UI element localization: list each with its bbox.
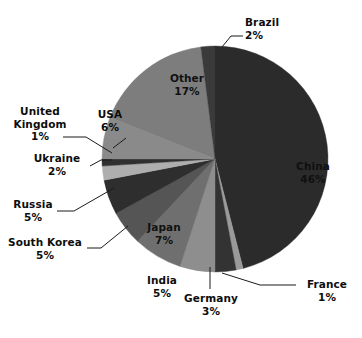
slice-label-china-name: China <box>296 160 330 172</box>
slice-label-ukraine-name: Ukraine <box>34 152 81 164</box>
slice-label-france-name: France <box>307 278 347 290</box>
slice-label-usa-name: USA <box>98 108 123 120</box>
slice-label-france-pct: 1% <box>299 291 355 304</box>
slice-label-united-kingdom-pct: 1% <box>6 130 74 143</box>
slice-label-japan-pct: 7% <box>135 234 193 247</box>
slice-label-united-kingdom-name2: Kingdom <box>6 118 74 131</box>
slice-label-usa-pct: 6% <box>88 121 132 134</box>
slice-label-united-kingdom: United Kingdom 1% <box>6 105 74 143</box>
slice-label-china-pct: 46% <box>285 173 341 186</box>
slice-label-other: Other 17% <box>152 72 222 97</box>
slice-label-japan: Japan 7% <box>135 221 193 246</box>
slice-label-brazil: Brazil 2% <box>245 16 279 41</box>
slice-label-usa: USA 6% <box>88 108 132 133</box>
slice-label-japan-name: Japan <box>147 221 181 233</box>
slice-label-other-name: Other <box>170 72 204 84</box>
slice-label-brazil-pct: 2% <box>245 29 279 42</box>
slice-label-india: India 5% <box>138 274 186 299</box>
slice-label-germany-name: Germany <box>184 292 238 304</box>
slice-label-ukraine: Ukraine 2% <box>26 152 88 177</box>
slice-label-germany: Germany 3% <box>180 292 242 317</box>
slice-label-south-korea-name: South Korea <box>8 236 82 248</box>
leader-line-russia <box>57 188 114 211</box>
slice-label-india-name: India <box>147 274 177 286</box>
slice-label-brazil-name: Brazil <box>245 16 279 28</box>
leader-line-france <box>222 273 296 285</box>
slice-label-united-kingdom-name: United <box>20 105 60 117</box>
slice-label-russia-pct: 5% <box>8 211 58 224</box>
slice-label-france: France 1% <box>299 278 355 303</box>
slice-label-russia-name: Russia <box>13 198 52 210</box>
slice-label-other-pct: 17% <box>152 85 222 98</box>
leader-line-korea <box>87 226 128 248</box>
leader-line-brazil <box>222 36 243 47</box>
slice-label-germany-pct: 3% <box>180 305 242 318</box>
slice-label-south-korea: South Korea 5% <box>2 236 88 261</box>
slice-label-ukraine-pct: 2% <box>26 165 88 178</box>
slice-label-russia: Russia 5% <box>8 198 58 223</box>
slice-label-china: China 46% <box>285 160 341 185</box>
slice-label-south-korea-pct: 5% <box>2 249 88 262</box>
chart-page: Brazil 2% Other 17% China 46% Japan 7% U… <box>0 0 362 338</box>
slice-label-india-pct: 5% <box>138 287 186 300</box>
